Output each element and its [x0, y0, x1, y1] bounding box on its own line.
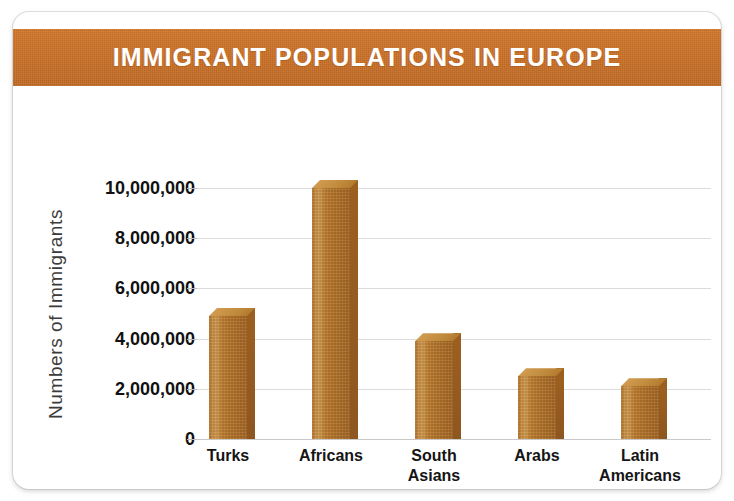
bar: [312, 180, 358, 439]
y-tick-label: 8,000,000: [53, 228, 195, 249]
y-axis-tick-labels: 02,000,0004,000,0006,000,0008,000,00010,…: [53, 86, 195, 489]
x-category-label-line: Africans: [271, 446, 391, 466]
bar-top-face: [312, 180, 358, 188]
y-tick-label: 10,000,000: [53, 178, 195, 199]
x-category-label: Turks: [168, 446, 288, 466]
bar-series: [196, 86, 711, 489]
x-category-label-line: Americans: [580, 466, 700, 486]
x-category-label-line: Asians: [374, 466, 494, 486]
bar-side-face: [556, 376, 564, 439]
x-category-label: Africans: [271, 446, 391, 466]
x-category-label-line: Latin: [580, 446, 700, 466]
chart-title-band: IMMIGRANT POPULATIONS IN EUROPE: [13, 29, 721, 86]
x-category-label-line: Arabs: [477, 446, 597, 466]
bar: [518, 368, 564, 439]
bar: [209, 308, 255, 439]
bar-front-face: [621, 386, 659, 439]
screenshot-root: IMMIGRANT POPULATIONS IN EUROPE Numbers …: [0, 0, 734, 501]
bar-top-face: [621, 378, 667, 386]
bar-front-face: [415, 341, 453, 439]
x-category-label-line: South: [374, 446, 494, 466]
bar-front-face: [518, 376, 556, 439]
bar: [415, 333, 461, 439]
bar-side-face: [350, 188, 358, 439]
bar-side-face: [247, 316, 255, 439]
bar-front-face: [209, 316, 247, 439]
x-category-label: Arabs: [477, 446, 597, 466]
y-tick-label: 2,000,000: [53, 378, 195, 399]
bar-front-face: [312, 188, 350, 439]
bar-top-face: [518, 368, 564, 376]
plot-area: Numbers of Immigrants 02,000,0004,000,00…: [13, 86, 721, 489]
x-category-label: LatinAmericans: [580, 446, 700, 487]
bar-top-face: [415, 333, 461, 341]
bar-top-face: [209, 308, 255, 316]
chart-card: IMMIGRANT POPULATIONS IN EUROPE Numbers …: [13, 12, 721, 489]
bar: [621, 378, 667, 439]
x-axis-category-labels: TurksAfricansSouthAsiansArabsLatinAmeric…: [196, 446, 711, 489]
x-category-label-line: Turks: [168, 446, 288, 466]
y-tick-label: 4,000,000: [53, 328, 195, 349]
x-category-label: SouthAsians: [374, 446, 494, 487]
bar-side-face: [453, 341, 461, 439]
y-tick-label: 6,000,000: [53, 278, 195, 299]
bar-side-face: [659, 386, 667, 439]
page-title: IMMIGRANT POPULATIONS IN EUROPE: [113, 43, 622, 72]
